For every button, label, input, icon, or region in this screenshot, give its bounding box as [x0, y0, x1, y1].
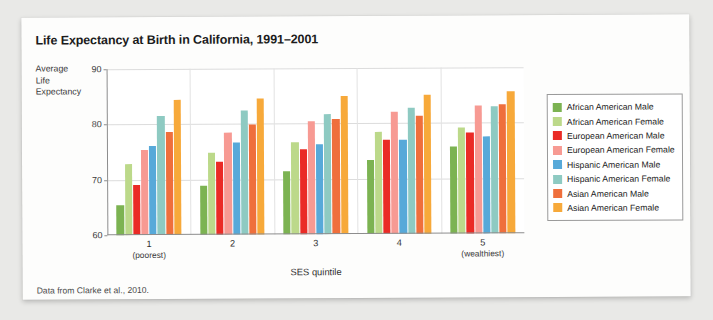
bar	[233, 142, 241, 234]
bar	[324, 114, 332, 234]
bar	[391, 112, 399, 234]
y-tick-label-80: 80	[92, 120, 102, 130]
bar	[200, 185, 207, 234]
source-note: Data from Clarke et al., 2010.	[37, 285, 149, 296]
legend-item-label: Hispanic American Male	[567, 159, 660, 169]
bar	[308, 121, 316, 234]
x-tick-sublabel-1: (poorest)	[132, 250, 166, 260]
legend-swatch-icon	[553, 117, 562, 126]
x-tick-label-4: 4	[397, 238, 402, 248]
y-tick-mark-80	[104, 125, 107, 126]
bar	[291, 142, 299, 234]
bar	[157, 116, 165, 235]
y-tick-label-70: 70	[92, 175, 102, 185]
bar	[474, 105, 482, 233]
y-tick-mark-70	[104, 180, 107, 181]
bar	[458, 127, 466, 233]
bar-group-1: 1(poorest)	[107, 69, 191, 235]
legend-item-label: African American Male	[567, 102, 654, 112]
x-tick-label-3: 3	[313, 238, 318, 248]
legend-item: Asian American Male	[553, 186, 675, 201]
bar	[340, 96, 348, 234]
legend-swatch-icon	[553, 103, 562, 112]
bar	[450, 147, 458, 234]
legend-item-label: European American Male	[567, 130, 665, 140]
y-axis-caption: Average Life Expectancy	[36, 63, 92, 98]
bar	[216, 162, 224, 235]
bar	[173, 100, 181, 235]
bar	[241, 111, 249, 235]
legend-item: Hispanic American Male	[553, 157, 675, 172]
legend-swatch-icon	[553, 189, 562, 198]
bar	[375, 132, 383, 234]
legend-item-label: Hispanic American Female	[567, 174, 670, 185]
bar-group-2: 2	[190, 68, 274, 234]
bar	[257, 98, 265, 234]
legend-item: European American Male	[553, 128, 675, 143]
bar	[117, 205, 124, 235]
x-tick-label-2: 2	[230, 239, 235, 249]
bar	[367, 160, 375, 234]
bar	[133, 185, 140, 235]
legend-item: African American Male	[553, 99, 675, 114]
y-tick-label-90: 90	[92, 64, 102, 74]
bar	[283, 171, 290, 234]
y-tick-mark-60	[104, 235, 107, 236]
bar	[499, 104, 507, 233]
bar	[466, 132, 474, 233]
chart-legend: African American MaleAfrican American Fe…	[547, 93, 683, 221]
x-tick-label-1: 1	[147, 239, 152, 249]
bar	[224, 133, 232, 235]
bar	[141, 150, 149, 235]
figure-card: Life Expectancy at Birth in California, …	[21, 14, 690, 299]
legend-swatch-icon	[553, 146, 562, 155]
x-tick-sublabel-5: (wealthiest)	[461, 248, 504, 258]
bar-group-3: 3	[273, 68, 357, 234]
bar	[383, 140, 391, 234]
legend-item-label: African American Female	[567, 116, 664, 126]
x-axis-title: SES quintile	[108, 265, 525, 278]
figure-title: Life Expectancy at Birth in California, …	[35, 32, 318, 47]
y-axis-caption-line1: Average	[36, 63, 92, 75]
bar-groups: 1(poorest)2345(wealthiest)	[107, 67, 524, 69]
bar	[407, 108, 415, 234]
scanned-page: Life Expectancy at Birth in California, …	[0, 0, 713, 320]
bar	[424, 94, 432, 233]
bar	[125, 164, 133, 235]
bar	[491, 107, 499, 234]
legend-swatch-icon	[553, 131, 562, 140]
plot-area: 1(poorest)2345(wealthiest) 60708090	[107, 67, 525, 235]
legend-item-label: European American Female	[567, 145, 675, 156]
bar	[149, 146, 157, 235]
x-tick-label-5: 5	[480, 237, 485, 247]
y-axis-caption-line3: Expectancy	[36, 86, 92, 98]
bar	[249, 124, 257, 234]
legend-item: European American Female	[553, 143, 675, 158]
bar	[507, 92, 515, 234]
bar	[165, 132, 173, 235]
legend-item: African American Female	[553, 114, 675, 129]
legend-item: Asian American Female	[553, 200, 675, 215]
legend-swatch-icon	[553, 203, 562, 212]
bar-group-4: 4	[357, 68, 441, 234]
legend-swatch-icon	[553, 175, 562, 184]
legend-item: Hispanic American Female	[553, 171, 675, 186]
bar	[208, 152, 216, 234]
bar	[332, 119, 340, 234]
bar	[399, 140, 407, 234]
bar	[300, 149, 308, 234]
legend-swatch-icon	[553, 160, 562, 169]
y-tick-mark-90	[104, 69, 107, 70]
bar	[416, 116, 424, 234]
y-tick-label-60: 60	[92, 230, 102, 240]
bar	[483, 136, 491, 233]
bar	[316, 145, 324, 235]
y-axis-caption-line2: Life	[36, 75, 92, 87]
legend-item-label: Asian American Female	[567, 202, 659, 212]
bar-group-5: 5(wealthiest)	[440, 67, 524, 233]
legend-item-label: Asian American Male	[567, 188, 649, 198]
